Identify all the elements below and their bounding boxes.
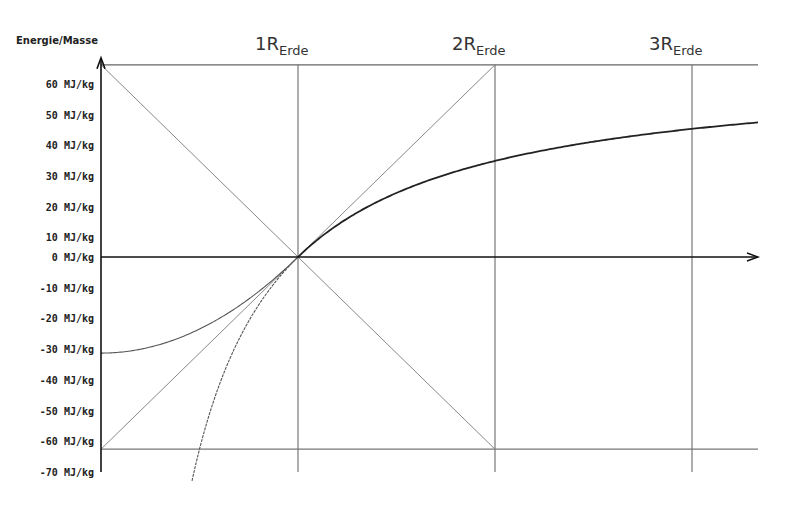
y-tick-label: -40 MJ/kg — [40, 375, 94, 386]
y-tick-label: -60 MJ/kg — [40, 436, 94, 447]
energy-chart: Energie/Masse60 MJ/kg50 MJ/kg40 MJ/kg30 … — [0, 0, 789, 508]
y-tick-label: 10 MJ/kg — [46, 232, 94, 243]
y-tick-label: 20 MJ/kg — [46, 202, 94, 213]
y-tick-label: -30 MJ/kg — [40, 344, 94, 355]
x-tick-label-2r: 2RErde — [452, 33, 506, 58]
y-tick-label: 60 MJ/kg — [46, 79, 94, 90]
y-tick-label: 40 MJ/kg — [46, 140, 94, 151]
y-axis-title: Energie/Masse — [16, 35, 98, 46]
y-tick-label: 30 MJ/kg — [46, 171, 94, 182]
y-tick-label: 50 MJ/kg — [46, 110, 94, 121]
y-tick-label: 0 MJ/kg — [52, 252, 94, 263]
x-tick-label-1r: 1RErde — [255, 33, 309, 58]
y-tick-label: -70 MJ/kg — [40, 467, 94, 478]
y-tick-label: -10 MJ/kg — [40, 283, 94, 294]
x-tick-label-3r: 3RErde — [649, 33, 703, 58]
inner-potential-curve — [101, 257, 298, 353]
outer-formula-inside-curve — [192, 257, 298, 481]
y-tick-label: -50 MJ/kg — [40, 406, 94, 417]
y-tick-label: -20 MJ/kg — [40, 313, 94, 324]
